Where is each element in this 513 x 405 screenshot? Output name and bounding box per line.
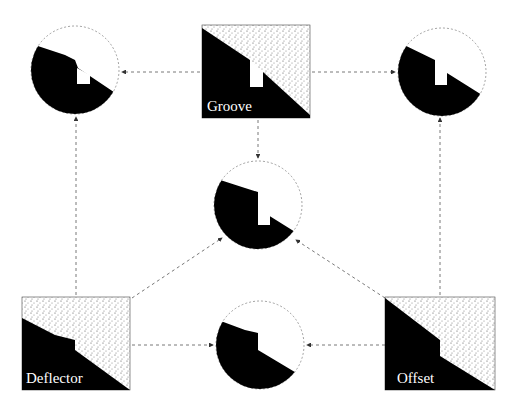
offset-label: Offset [397, 370, 434, 387]
arrow-deflector-to-center [132, 238, 222, 298]
arrow-offset-to-center [296, 240, 385, 298]
result-groove-offset [390, 28, 490, 130]
result-groove-deflector [20, 26, 130, 130]
deflector-label: Deflector [26, 370, 83, 387]
groove-label: Groove [207, 98, 252, 115]
result-all-combined [205, 161, 302, 260]
result-deflector-offset [205, 301, 305, 395]
combination-diagram [0, 0, 513, 405]
